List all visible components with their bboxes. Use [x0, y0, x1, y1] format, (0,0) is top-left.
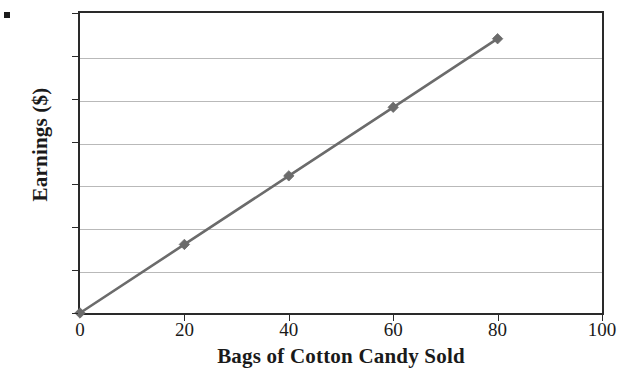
y-tick-mark-10 — [72, 227, 78, 228]
x-axis-title: Bags of Cotton Candy Sold — [78, 344, 604, 369]
y-tick-mark-35 — [72, 13, 78, 14]
data-series-layer — [80, 13, 602, 313]
x-tick-label-0: 0 — [50, 320, 110, 339]
y-tick-mark-15 — [72, 184, 78, 185]
y-tick-mark-5 — [72, 270, 78, 271]
x-tick-label-80: 80 — [468, 320, 528, 339]
y-tick-mark-25 — [72, 99, 78, 100]
plot-area — [78, 11, 604, 315]
chart-figure: 05101520253035 020406080100 Earnings ($)… — [0, 0, 623, 375]
y-tick-mark-0 — [72, 313, 78, 314]
x-tick-label-60: 60 — [363, 320, 423, 339]
x-tick-label-100: 100 — [572, 320, 623, 339]
x-tick-label-40: 40 — [259, 320, 319, 339]
y-tick-mark-20 — [72, 142, 78, 143]
y-tick-mark-30 — [72, 56, 78, 57]
y-axis-title: Earnings ($) — [28, 35, 53, 255]
scan-artifact-dot — [4, 12, 10, 18]
x-tick-label-20: 20 — [154, 320, 214, 339]
